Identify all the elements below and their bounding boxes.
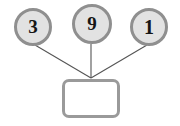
number-circle-part-1[interactable]: 3 (14, 8, 52, 46)
number-circle-part-2-value: 9 (87, 14, 97, 33)
connector-line-part-3 (91, 45, 147, 78)
number-circle-part-1-value: 3 (28, 17, 38, 36)
sum-answer-value (65, 82, 117, 115)
number-circle-part-2[interactable]: 9 (72, 4, 112, 44)
connector-line-part-1 (35, 45, 91, 78)
number-bond-diagram: 3 9 1 (0, 0, 180, 126)
number-circle-part-3[interactable]: 1 (130, 8, 168, 46)
number-circle-part-3-value: 1 (144, 17, 154, 37)
sum-answer-box[interactable] (62, 79, 120, 118)
